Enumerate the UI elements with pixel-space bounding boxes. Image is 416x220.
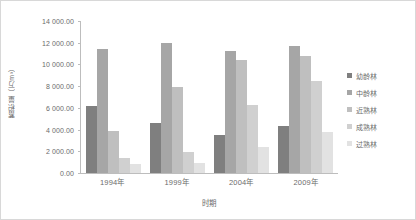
- legend-item[interactable]: 幼龄林: [347, 67, 413, 84]
- y-axis-tick-label: 10 000.00: [42, 61, 74, 68]
- y-axis-tick-mark: [78, 21, 81, 22]
- x-axis-tick-label: 1994年: [80, 176, 145, 187]
- x-axis-tick-labels: 1994年1999年2004年2009年: [80, 176, 338, 187]
- legend-swatch-icon: [347, 124, 352, 129]
- y-axis-tick-mark: [78, 173, 81, 174]
- legend: 幼龄林中龄林近熟林成熟林过熟林: [347, 67, 413, 152]
- bar[interactable]: [130, 164, 141, 173]
- bar[interactable]: [97, 49, 108, 173]
- bar[interactable]: [311, 81, 322, 173]
- legend-item-label: 成熟林: [356, 122, 378, 132]
- bar-group: [145, 21, 209, 173]
- y-axis-tick-mark: [78, 64, 81, 65]
- y-axis-tick-label: 4 000.00: [46, 126, 74, 133]
- bar[interactable]: [322, 132, 333, 173]
- bar-group: [81, 21, 145, 173]
- y-axis-tick-mark: [78, 86, 81, 87]
- bar-group: [210, 21, 274, 173]
- legend-swatch-icon: [347, 90, 352, 95]
- legend-item[interactable]: 成熟林: [347, 118, 413, 135]
- y-axis-tick-label: 12 000.00: [42, 39, 74, 46]
- bar[interactable]: [194, 163, 205, 173]
- bar[interactable]: [161, 43, 172, 173]
- legend-swatch-icon: [347, 141, 352, 146]
- bar[interactable]: [289, 46, 300, 173]
- bar[interactable]: [108, 131, 119, 173]
- bar[interactable]: [225, 51, 236, 173]
- y-axis-tick-mark: [78, 108, 81, 109]
- legend-item[interactable]: 近熟林: [347, 101, 413, 118]
- y-axis-tick-mark: [78, 130, 81, 131]
- bar[interactable]: [236, 60, 247, 173]
- legend-item-label: 近熟林: [356, 105, 378, 115]
- y-axis-tick-mark: [78, 43, 81, 44]
- x-axis-title: 时期: [80, 197, 338, 208]
- y-axis-tick-label: 2 000.00: [46, 148, 74, 155]
- y-axis-tick-label: 0.00: [60, 170, 74, 177]
- bar[interactable]: [278, 126, 289, 173]
- legend-swatch-icon: [347, 107, 352, 112]
- legend-item[interactable]: 过熟林: [347, 135, 413, 152]
- legend-item-label: 中龄林: [356, 88, 378, 98]
- x-axis-tick-label: 2004年: [209, 176, 274, 187]
- legend-item-label: 幼龄林: [356, 71, 378, 81]
- bar[interactable]: [214, 135, 225, 173]
- legend-swatch-icon: [347, 73, 352, 78]
- bar[interactable]: [183, 152, 194, 173]
- y-axis-tick-label: 8 000.00: [46, 83, 74, 90]
- bar[interactable]: [172, 87, 183, 173]
- bar[interactable]: [86, 106, 97, 173]
- bar[interactable]: [300, 56, 311, 173]
- legend-item[interactable]: 中龄林: [347, 84, 413, 101]
- x-axis-tick-label: 1999年: [145, 176, 210, 187]
- bar[interactable]: [258, 147, 269, 173]
- legend-item-label: 过熟林: [356, 139, 378, 149]
- x-axis-tick-label: 2009年: [274, 176, 339, 187]
- bar[interactable]: [247, 105, 258, 173]
- plot-area: [80, 21, 338, 174]
- bar[interactable]: [150, 123, 161, 173]
- y-axis-tick-labels: 0.002 000.004 000.006 000.008 000.0010 0…: [19, 15, 77, 175]
- y-axis-tick-label: 14 000.00: [42, 18, 74, 25]
- y-axis-tick-mark: [78, 151, 81, 152]
- y-axis-title-label: 蓄积量（万m³）: [7, 64, 17, 118]
- y-axis-tick-label: 6 000.00: [46, 104, 74, 111]
- bar-group: [274, 21, 338, 173]
- bars-layer: [81, 21, 338, 173]
- bar[interactable]: [119, 158, 130, 173]
- bar-chart: 蓄积量（万m³） 0.002 000.004 000.006 000.008 0…: [0, 0, 416, 220]
